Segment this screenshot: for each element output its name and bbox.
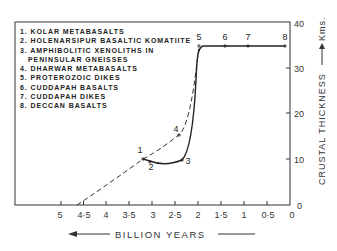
svg-text:30: 30	[294, 64, 304, 74]
svg-text:2·5: 2·5	[168, 210, 181, 220]
svg-text:1: 1	[137, 145, 142, 155]
x-tick-labels: 5 4·5 4 3·5 3 2·5 2 1·5 1 0·5 0	[57, 210, 294, 220]
legend-item-2: 2. HOLENARSIPUR BASALTIC KOMATIITE	[20, 36, 191, 45]
y-tick-labels: 0 10 20 30 40	[294, 19, 304, 211]
svg-text:5: 5	[57, 210, 62, 220]
legend-item-8: 8. DECCAN BASALTS	[20, 101, 191, 110]
svg-text:1·5: 1·5	[214, 210, 227, 220]
legend-item-4: 4. DHARWAR METABASALTS	[20, 64, 191, 73]
legend-item-1: 1. KOLAR METABASALTS	[20, 27, 191, 36]
legend-item-3-cont: PENINSULAR GNEISSES	[20, 55, 191, 64]
svg-text:5: 5	[196, 32, 201, 42]
svg-text:0: 0	[289, 210, 294, 220]
svg-text:3: 3	[185, 156, 190, 166]
legend-item-7: 7. CUDDAPAH DIKES	[20, 92, 191, 101]
y-axis-ticks	[286, 68, 290, 159]
y-axis-label: CRUSTAL THICKNESS Kms.	[317, 16, 327, 185]
left-arrow-icon	[68, 231, 77, 237]
x-axis-ticks	[61, 201, 267, 205]
svg-text:20: 20	[294, 109, 304, 119]
svg-text:4: 4	[103, 210, 108, 220]
svg-text:6: 6	[222, 32, 227, 42]
svg-text:3: 3	[150, 210, 155, 220]
svg-text:10: 10	[294, 155, 304, 165]
svg-text:7: 7	[245, 32, 250, 42]
svg-text:8: 8	[282, 32, 287, 42]
legend-item-3: 3. AMPHIBOLITIC XENOLITHS IN	[20, 46, 191, 55]
svg-text:Kms.: Kms.	[317, 16, 327, 41]
svg-text:0: 0	[297, 201, 302, 211]
legend: 1. KOLAR METABASALTS 2. HOLENARSIPUR BAS…	[20, 27, 191, 111]
svg-text:3·5: 3·5	[122, 210, 135, 220]
svg-text:CRUSTAL THICKNESS: CRUSTAL THICKNESS	[317, 73, 327, 185]
svg-text:1: 1	[241, 210, 246, 220]
svg-text:0·5: 0·5	[261, 210, 274, 220]
svg-text:40: 40	[294, 19, 304, 29]
svg-text:4·5: 4·5	[77, 210, 90, 220]
legend-item-6: 6. CUDDAPAH BASALTS	[20, 83, 191, 92]
svg-text:BILLION YEARS: BILLION YEARS	[115, 229, 206, 240]
legend-item-5: 5. PROTEROZOIC DIKES	[20, 73, 191, 82]
x-axis-label: BILLION YEARS	[68, 229, 255, 240]
svg-text:2: 2	[195, 210, 200, 220]
svg-text:4: 4	[173, 124, 178, 134]
svg-text:2: 2	[148, 162, 153, 172]
